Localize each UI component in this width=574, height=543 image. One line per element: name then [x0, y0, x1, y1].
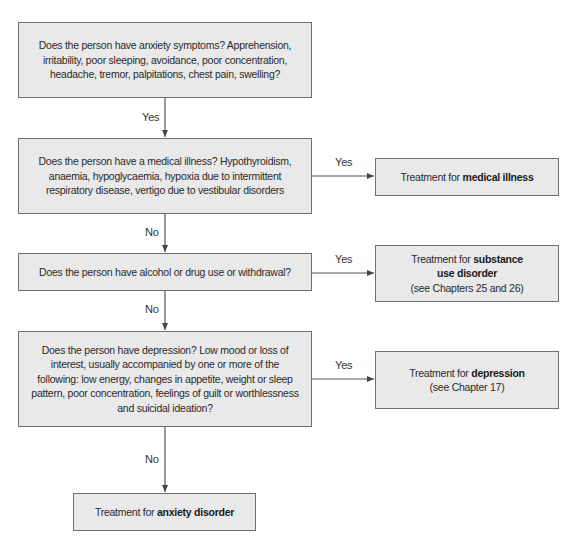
question-text: Does the person have depression? Low moo…: [29, 343, 301, 416]
outcome-note: (see Chapter 17): [430, 381, 505, 393]
outcome-medical-illness: Treatment for medical illness: [375, 158, 559, 196]
outcome-prefix: Treatment for: [95, 506, 157, 518]
outcome-prefix: Treatment for: [409, 367, 471, 379]
question-text: Does the person have a medical illness? …: [27, 154, 303, 198]
outcome-prefix: Treatment for: [411, 253, 473, 265]
edge-label-yes: Yes: [335, 253, 352, 265]
question-substance-use: Does the person have alcohol or drug use…: [18, 253, 312, 291]
edge-label-no: No: [145, 303, 159, 315]
question-text: Does the person have alcohol or drug use…: [39, 265, 291, 280]
question-depression: Does the person have depression? Low moo…: [18, 331, 312, 427]
edge-label-no: No: [145, 453, 159, 465]
outcome-note: (see Chapters 25 and 26): [410, 282, 523, 294]
question-anxiety-symptoms: Does the person have anxiety symptoms? A…: [18, 22, 312, 98]
outcome-emphasis: anxiety disorder: [157, 506, 234, 518]
edge-label-yes: Yes: [335, 359, 352, 371]
question-text: Does the person have anxiety symptoms? A…: [27, 38, 303, 82]
outcome-substance-use-disorder: Treatment for substance use disorder (se…: [375, 245, 559, 302]
edge-label-no: No: [145, 226, 159, 238]
outcome-emphasis: medical illness: [463, 171, 534, 183]
outcome-prefix: Treatment for: [400, 171, 462, 183]
question-medical-illness: Does the person have a medical illness? …: [18, 138, 312, 214]
outcome-anxiety-disorder: Treatment for anxiety disorder: [73, 493, 256, 531]
outcome-depression: Treatment for depression (see Chapter 17…: [375, 351, 559, 409]
edge-label-yes: Yes: [335, 156, 352, 168]
outcome-emphasis: depression: [471, 367, 525, 379]
edge-label-yes: Yes: [142, 111, 159, 123]
